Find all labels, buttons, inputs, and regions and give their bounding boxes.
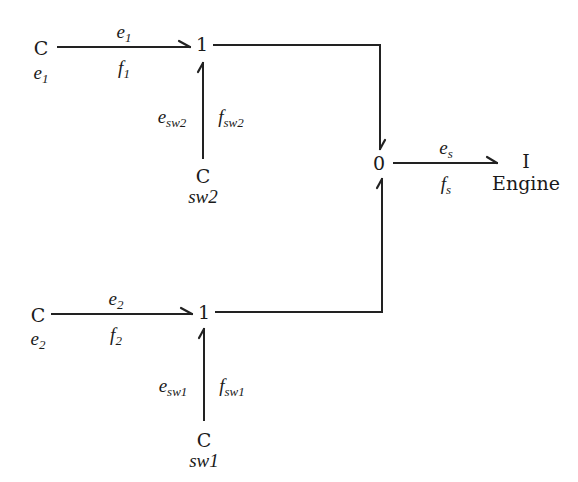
bond-e2-flow: f2 — [110, 324, 122, 348]
bond-sw2: esw2 fsw2 — [158, 63, 245, 158]
bond-e1-flow: f1 — [118, 57, 130, 81]
bond-s-effort: es — [439, 137, 453, 161]
bond-e2-effort: e2 — [109, 288, 124, 312]
bond-bottom-to-0 — [216, 179, 382, 312]
node-i-engine-caption: Engine — [492, 172, 560, 194]
junction-1-bottom: 1 — [198, 301, 210, 323]
bond-sw1: esw1 fsw1 — [159, 329, 245, 420]
node-c-e1-caption: e1 — [34, 62, 49, 86]
bond-sw1-effort: esw1 — [159, 375, 188, 399]
bond-e1-effort: e1 — [117, 21, 132, 45]
bond-top-to-0 — [214, 45, 385, 149]
node-c-e2: C — [31, 304, 46, 326]
junction-1-top: 1 — [196, 33, 208, 55]
node-c-sw1-caption: sw1 — [189, 450, 219, 471]
node-c-e1: C — [34, 37, 49, 59]
bond-e1: e1 f1 — [58, 21, 190, 81]
bond-sw2-flow: fsw2 — [218, 106, 244, 130]
bond-graph-diagram: C e1 1 C sw2 0 I Engine C e2 1 C sw1 e1 … — [0, 0, 578, 482]
node-c-sw1: C — [197, 429, 212, 451]
bond-top-to-0-line — [214, 45, 380, 149]
bond-e2: e2 f2 — [52, 288, 192, 348]
node-c-e2-caption: e2 — [31, 328, 46, 352]
node-c-sw2-caption: sw2 — [188, 186, 218, 207]
bond-bottom-to-0-line — [216, 179, 382, 312]
bond-s: es fs — [394, 137, 497, 197]
bond-sw1-flow: fsw1 — [219, 375, 245, 399]
node-c-sw2: C — [196, 165, 211, 187]
bond-sw2-effort: esw2 — [158, 106, 187, 130]
bond-s-flow: fs — [441, 173, 451, 197]
node-i-engine: I — [522, 150, 530, 172]
junction-0: 0 — [373, 152, 385, 174]
